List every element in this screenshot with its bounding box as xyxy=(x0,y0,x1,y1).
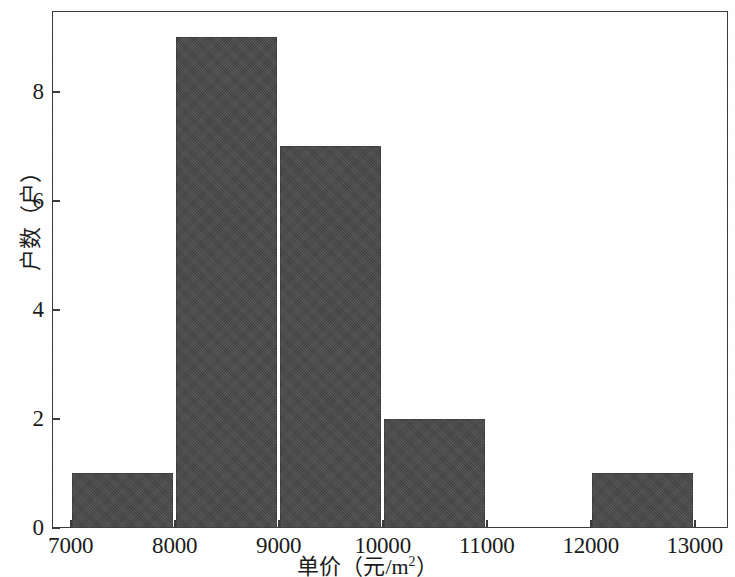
x-axis-tick xyxy=(694,520,696,528)
x-axis-tick xyxy=(70,520,72,528)
x-axis-tick xyxy=(590,520,592,528)
x-axis-tick xyxy=(486,520,488,528)
x-axis-tick xyxy=(382,520,384,528)
x-axis-tick xyxy=(174,520,176,528)
histogram-bar xyxy=(72,473,173,528)
y-axis-tick xyxy=(52,91,60,93)
histogram-bar xyxy=(384,419,485,528)
y-axis-tick-label: 2 xyxy=(33,406,45,432)
histogram-bar xyxy=(176,37,277,528)
y-axis-tick xyxy=(52,200,60,202)
y-axis-title: 户数（户） xyxy=(12,136,44,296)
y-axis-tick-label: 0 xyxy=(33,515,45,541)
histogram-figure: 7000800090001000011000120001300002468 单价… xyxy=(0,0,735,577)
histogram-bar xyxy=(280,146,381,528)
x-axis-title: 单价（元/m2） xyxy=(0,548,735,577)
y-axis-tick-label: 4 xyxy=(33,297,45,323)
y-axis-tick xyxy=(52,527,60,529)
histogram-bar xyxy=(592,473,693,528)
x-axis-title-superscript: 2 xyxy=(409,554,416,569)
bars-layer xyxy=(52,11,728,528)
y-axis-tick xyxy=(52,418,60,420)
y-axis-tick xyxy=(52,309,60,311)
y-axis-tick-label: 8 xyxy=(33,79,45,105)
x-axis-tick xyxy=(278,520,280,528)
